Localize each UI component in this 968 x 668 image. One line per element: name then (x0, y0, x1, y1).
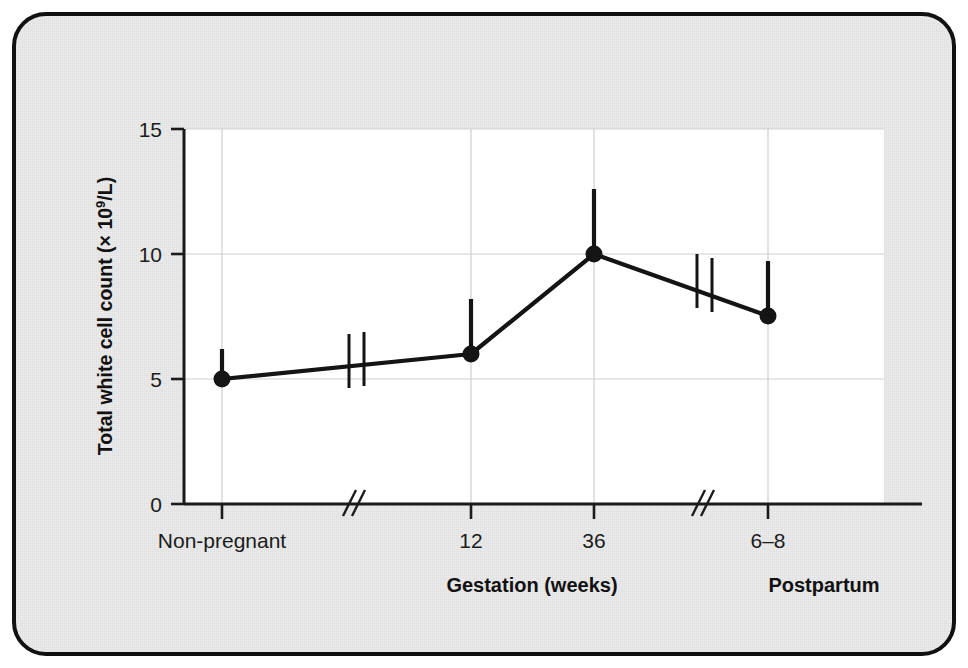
chart-area: 15 10 5 0 Non-pregnant 12 (16, 16, 960, 660)
y-tick-label-0: 0 (150, 493, 162, 516)
x-axis-title: Gestation (weeks) (446, 574, 617, 596)
x-axis-ticks (222, 504, 768, 519)
x-axis-title-secondary: Postpartum (768, 574, 879, 596)
y-tick-label-10: 10 (139, 243, 162, 266)
x-tick-label-postpartum-weeks: 6–8 (750, 529, 785, 552)
x-tick-label-36: 36 (582, 529, 605, 552)
y-axis-ticks (171, 129, 184, 504)
x-tick-label-12: 12 (459, 529, 482, 552)
chart-svg: 15 10 5 0 Non-pregnant 12 (16, 16, 960, 660)
y-axis-title: Total white cell count (× 109/L) (93, 177, 116, 455)
figure-card: 15 10 5 0 Non-pregnant 12 (12, 12, 956, 656)
y-tick-label-5: 5 (150, 368, 162, 391)
y-axis-title-exponent: 9 (93, 201, 108, 208)
y-axis-title-suffix: /L) (94, 177, 116, 201)
y-tick-label-15: 15 (139, 118, 162, 141)
data-point-postpartum[interactable] (760, 308, 777, 325)
x-tick-label-non-pregnant: Non-pregnant (158, 529, 287, 552)
data-point-36[interactable] (586, 246, 603, 263)
data-point-non-pregnant[interactable] (214, 371, 231, 388)
plot-background (184, 129, 884, 504)
data-point-12[interactable] (463, 346, 480, 363)
y-axis-title-prefix: Total white cell count (× 10 (94, 208, 116, 455)
